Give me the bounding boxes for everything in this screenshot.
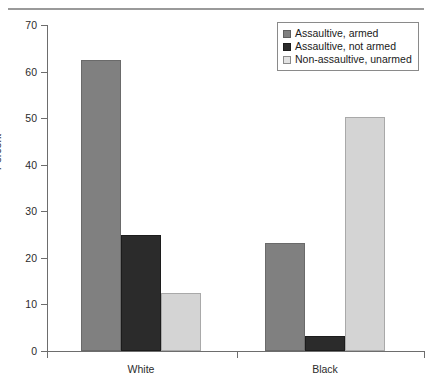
bar-black-series-0 xyxy=(265,243,305,352)
legend-label: Assaultive, armed xyxy=(295,28,378,39)
y-tick-label: 10 xyxy=(13,299,37,310)
legend-item-0: Assaultive, armed xyxy=(283,27,412,40)
bars-layer xyxy=(47,25,425,351)
legend-label: Non-assaultive, unarmed xyxy=(295,54,412,65)
x-tick-mark xyxy=(237,352,238,358)
bar-white-series-1 xyxy=(121,235,161,351)
y-tick-label: 70 xyxy=(13,20,37,31)
bar-black-series-2 xyxy=(345,117,385,351)
legend-swatch-icon xyxy=(283,56,291,64)
bar-white-series-0 xyxy=(81,60,121,351)
bar-black-series-1 xyxy=(305,336,345,351)
bar-white-series-2 xyxy=(161,293,201,351)
legend-item-2: Non-assaultive, unarmed xyxy=(283,53,412,66)
legend-swatch-icon xyxy=(283,30,291,38)
y-tick-label: 30 xyxy=(13,206,37,217)
x-tick-mark xyxy=(424,352,425,358)
legend-item-1: Assaultive, not armed xyxy=(283,40,412,53)
y-tick-label: 50 xyxy=(13,113,37,124)
y-axis-title: Percent xyxy=(0,134,3,170)
y-tick-label: 40 xyxy=(13,160,37,171)
legend-swatch-icon xyxy=(283,43,291,51)
x-category-label-black: Black xyxy=(285,363,365,375)
y-tick-label: 20 xyxy=(13,253,37,264)
top-horizontal-rule xyxy=(8,8,424,10)
y-tick-label: 60 xyxy=(13,67,37,78)
x-category-label-white: White xyxy=(101,363,181,375)
chart-legend: Assaultive, armedAssaultive, not armedNo… xyxy=(277,22,419,71)
bar-chart-figure: Percent 010203040506070 WhiteBlack Assau… xyxy=(0,0,432,388)
legend-label: Assaultive, not armed xyxy=(295,41,396,52)
x-axis-line xyxy=(47,351,425,352)
y-tick-label: 0 xyxy=(13,346,37,357)
x-tick-mark xyxy=(47,352,48,358)
